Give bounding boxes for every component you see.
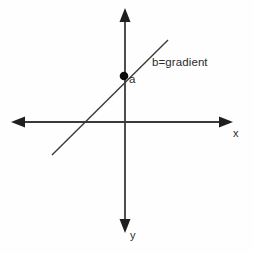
x-axis-label: x	[233, 128, 239, 139]
intercept-label: a	[129, 74, 135, 86]
cartesian-plot-svg	[0, 0, 253, 254]
y-intercept-dot	[120, 72, 129, 81]
gradient-label: b=gradient	[152, 57, 208, 69]
y-axis-up-arrowhead	[120, 8, 131, 22]
graph-figure: b=gradient a x y	[0, 0, 253, 254]
y-axis-label: y	[130, 230, 136, 241]
gradient-line	[52, 40, 168, 155]
y-axis-down-arrowhead	[120, 219, 131, 233]
x-axis-right-arrowhead	[219, 117, 233, 128]
x-axis-left-arrowhead	[11, 117, 25, 128]
